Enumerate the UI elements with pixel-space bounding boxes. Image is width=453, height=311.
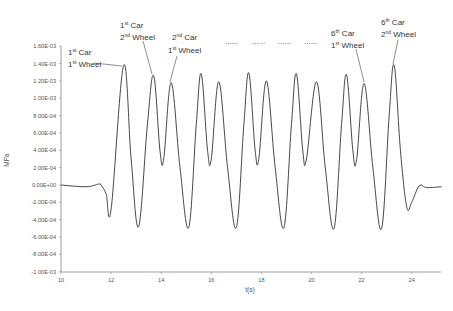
svg-text:1st Wheel: 1st Wheel — [68, 59, 101, 69]
annotation-leader — [143, 41, 152, 74]
annotation-leader — [170, 56, 177, 82]
svg-text:1st Car: 1st Car — [68, 47, 92, 57]
y-tick-label: -6.00E-04 — [31, 234, 56, 240]
svg-text:2nd Wheel: 2nd Wheel — [120, 32, 155, 42]
y-tick-label: 1.40E-03 — [33, 61, 56, 67]
ellipsis-1: ...... — [225, 37, 238, 46]
y-axis-label: MPa — [3, 153, 10, 167]
x-tick-label: 18 — [258, 277, 264, 283]
y-tick-label: 4.00E-04 — [33, 147, 56, 153]
x-tick-label: 24 — [409, 277, 415, 283]
line-chart: 1.60E-031.40E-031.20E-031.00E-038.00E-04… — [0, 0, 453, 311]
y-tick-label: 2.00E-04 — [33, 165, 56, 171]
annotation-leader — [393, 40, 398, 64]
annotation-1st-car-2nd-wheel: 1st Car 2nd Wheel — [120, 20, 155, 42]
x-tick-label: 22 — [358, 277, 364, 283]
y-tick-label: -4.00E-04 — [31, 217, 56, 223]
x-tick-label: 14 — [158, 277, 164, 283]
ellipsis-2: ...... — [252, 37, 265, 46]
svg-text:1st Wheel: 1st Wheel — [331, 40, 364, 50]
svg-text:2nd Car: 2nd Car — [172, 32, 197, 42]
annotation-leader — [356, 49, 364, 82]
y-tick-label: 8.00E-04 — [33, 113, 56, 119]
svg-text:1st Wheel: 1st Wheel — [168, 45, 201, 55]
stress-series-line — [61, 64, 442, 229]
ellipsis-4: ...... — [304, 37, 317, 46]
x-tick-label: 12 — [108, 277, 114, 283]
annotation-2nd-car-1st-wheel: 2nd Car 1st Wheel — [168, 32, 201, 55]
y-ticks: 1.60E-031.40E-031.20E-031.00E-038.00E-04… — [31, 43, 61, 275]
x-tick-label: 10 — [58, 277, 64, 283]
y-tick-label: 1.00E-03 — [33, 95, 56, 101]
y-tick-label: -2.00E-04 — [31, 199, 56, 205]
ellipsis-3: ...... — [278, 37, 291, 46]
y-tick-label: 0.00E+00 — [32, 182, 56, 188]
svg-text:6th Car: 6th Car — [381, 17, 405, 27]
x-tick-label: 20 — [308, 277, 314, 283]
x-ticks: 1012141618202224 — [58, 272, 415, 283]
annotation-6th-car-1st-wheel: 6th Car 1st Wheel — [331, 28, 364, 50]
y-tick-label: 6.00E-04 — [33, 130, 56, 136]
x-tick-label: 16 — [208, 277, 214, 283]
svg-text:1st Car: 1st Car — [120, 20, 144, 30]
x-axis-label: t(s) — [245, 286, 254, 294]
y-tick-label: 1.60E-03 — [33, 43, 56, 49]
y-tick-label: -1.00E-03 — [31, 269, 56, 275]
svg-text:2nd Wheel: 2nd Wheel — [381, 29, 416, 39]
svg-text:6th Car: 6th Car — [331, 28, 355, 38]
annotation-1st-car-1st-wheel: 1st Car 1st Wheel — [68, 47, 101, 69]
y-tick-label: 1.20E-03 — [33, 78, 56, 84]
y-tick-label: -8.00E-04 — [31, 251, 56, 257]
annotation-6th-car-2nd-wheel: 6th Car 2nd Wheel — [381, 17, 416, 39]
